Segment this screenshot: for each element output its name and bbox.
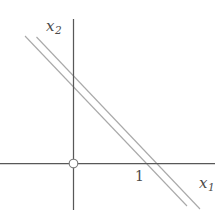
- x-axis-label-subscript: 1: [207, 181, 214, 193]
- line-plot-figure: x2 x1 1: [0, 0, 215, 210]
- constraint-line-upper: [25, 36, 187, 206]
- axes-group: [0, 19, 215, 210]
- constraint-line-lower: [37, 37, 201, 209]
- y-axis-label: x2: [46, 19, 62, 36]
- y-axis-label-subscript: 2: [54, 24, 61, 36]
- x-tick-label-1: 1: [135, 169, 144, 183]
- plot-canvas: [0, 0, 215, 210]
- origin-marker: [69, 159, 78, 168]
- parallel-lines-group: [25, 36, 200, 209]
- x-axis-label: x1: [199, 176, 215, 193]
